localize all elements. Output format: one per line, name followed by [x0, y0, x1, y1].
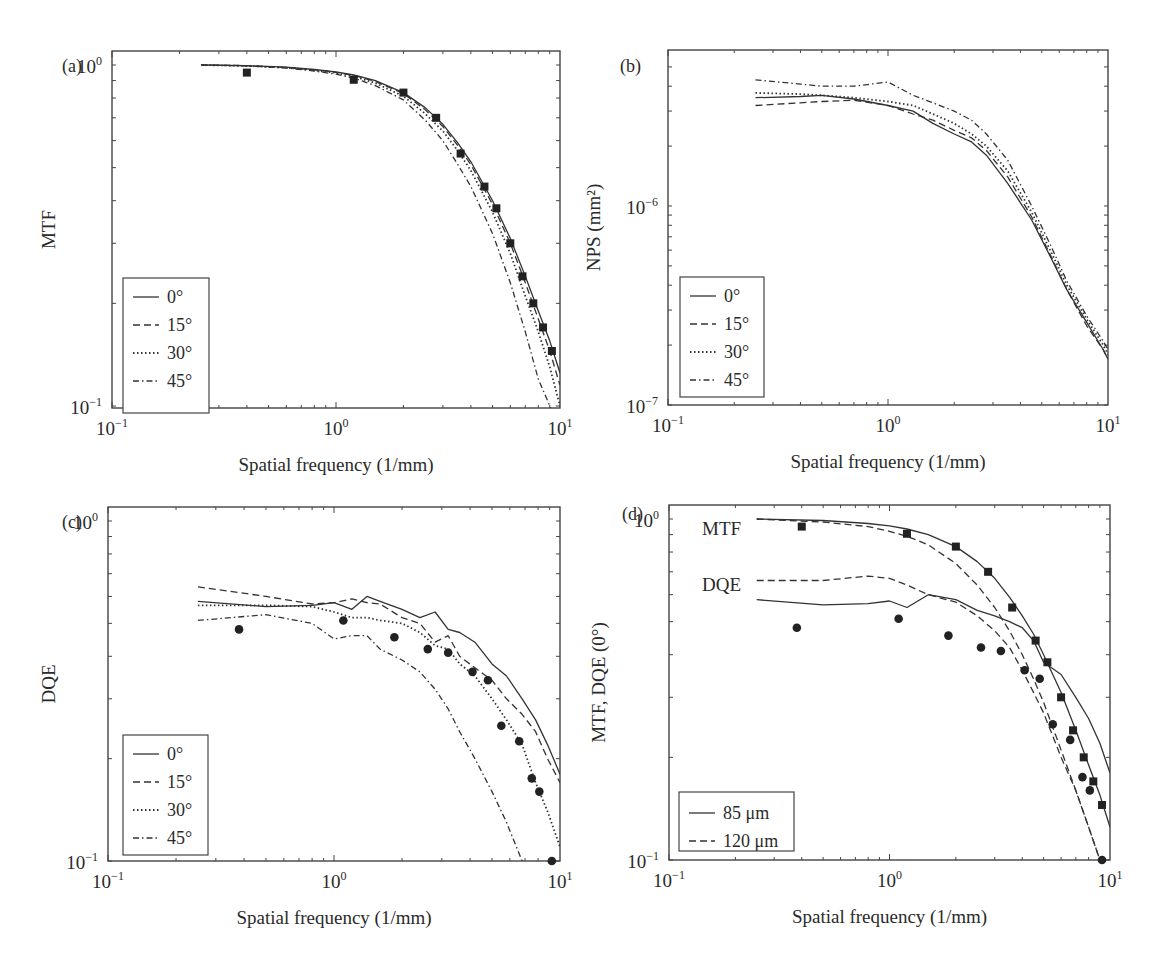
- panel-c: 10−110010110−1100(c)Spatial frequency (1…: [38, 507, 573, 929]
- panel-label: (d): [622, 504, 643, 525]
- legend: 85 μm120 μm: [679, 792, 794, 851]
- x-tick-label: 100: [877, 868, 902, 891]
- exponent: −1: [115, 416, 128, 430]
- data-marker-square: [506, 239, 514, 247]
- x-tick-label: 100: [876, 413, 901, 436]
- data-marker-square: [1098, 801, 1106, 809]
- plot-area: [201, 65, 560, 428]
- annotation-mtf: MTF: [702, 518, 741, 539]
- data-marker-circle: [944, 631, 953, 640]
- exponent: −1: [671, 413, 684, 427]
- data-marker-circle: [1020, 666, 1029, 675]
- data-marker-circle: [484, 676, 493, 685]
- series-line-MTF85m: [757, 519, 1110, 827]
- legend-label: 0°: [724, 286, 740, 306]
- exponent: 1: [1115, 413, 1121, 427]
- panel-label: (c): [62, 512, 82, 533]
- data-marker-square: [1089, 777, 1097, 785]
- exponent: 0: [92, 510, 98, 524]
- x-tick-label: 101: [548, 416, 573, 439]
- series-line-45: [201, 65, 560, 428]
- exponent: −1: [85, 850, 98, 864]
- legend: 0°15°30°45°: [680, 277, 764, 397]
- x-axis-label: Spatial frequency (1/mm): [236, 907, 431, 929]
- data-marker-circle: [1035, 674, 1044, 683]
- data-marker-square: [903, 530, 911, 538]
- exponent: −7: [645, 394, 658, 408]
- exponent: −1: [111, 869, 124, 883]
- data-marker-circle: [1066, 736, 1075, 745]
- exponent: 1: [567, 869, 573, 883]
- data-marker-square: [243, 69, 251, 77]
- data-marker-circle: [894, 614, 903, 623]
- y-axis-label: MTF, DQE (0°): [588, 622, 610, 743]
- legend-label: 30°: [167, 800, 192, 820]
- legend-label: 30°: [724, 342, 749, 362]
- data-marker-square: [399, 89, 407, 97]
- series-line-0: [756, 95, 1109, 359]
- data-marker-square: [1069, 726, 1077, 734]
- data-marker-circle: [977, 643, 986, 652]
- plot-area: [756, 80, 1109, 359]
- data-marker-square: [952, 543, 960, 551]
- series-line-30: [198, 605, 560, 847]
- x-axis-label: Spatial frequency (1/mm): [238, 454, 433, 476]
- data-marker-circle: [423, 645, 432, 654]
- x-axis-label: Spatial frequency (1/mm): [792, 906, 987, 928]
- series-line-15: [756, 100, 1109, 359]
- data-marker-square: [1057, 693, 1065, 701]
- series-line-0: [201, 65, 560, 373]
- panel-label: (a): [62, 56, 82, 77]
- legend-label: 15°: [167, 315, 192, 335]
- exponent: −1: [89, 395, 102, 409]
- y-tick-label: 10−1: [70, 395, 102, 418]
- x-tick-label: 101: [1096, 413, 1121, 436]
- data-marker-circle: [548, 857, 557, 866]
- legend-label: 120 μm: [723, 831, 778, 851]
- data-marker-circle: [1048, 720, 1057, 729]
- x-tick-label: 101: [548, 869, 573, 892]
- x-tick-label: 100: [324, 416, 349, 439]
- exponent: 0: [341, 869, 347, 883]
- series-line-MTF120m: [757, 519, 1110, 880]
- series-line-DQE120m: [757, 576, 1110, 880]
- y-tick-label: 10−1: [627, 849, 659, 872]
- data-marker-circle: [235, 625, 244, 634]
- data-marker-circle: [468, 668, 477, 677]
- data-marker-circle: [1098, 856, 1107, 865]
- x-tick-label: 10−1: [653, 868, 685, 891]
- data-marker-square: [1008, 604, 1016, 612]
- legend-box: [123, 735, 208, 855]
- data-marker-circle: [535, 787, 544, 796]
- data-marker-square: [548, 347, 556, 355]
- legend-box: [680, 277, 764, 397]
- figure-grid: 10−110010110−1100(a)Spatial frequency (1…: [0, 0, 1167, 966]
- data-marker-square: [432, 114, 440, 122]
- panel-label: (b): [620, 56, 641, 77]
- data-marker-square: [518, 272, 526, 280]
- legend-label: 85 μm: [723, 803, 769, 823]
- annotation-dqe: DQE: [702, 574, 741, 595]
- legend-label: 45°: [167, 828, 192, 848]
- x-axis-label: Spatial frequency (1/mm): [790, 451, 985, 473]
- x-tick-label: 10−1: [92, 869, 124, 892]
- y-axis-label: NPS (mm²): [583, 184, 605, 272]
- data-marker-square: [350, 76, 358, 84]
- data-marker-square: [457, 150, 465, 158]
- plot-area: [757, 519, 1110, 880]
- legend-label: 0°: [167, 744, 183, 764]
- data-marker-circle: [793, 623, 802, 632]
- data-marker-circle: [527, 774, 536, 783]
- x-tick-label: 10−1: [652, 413, 684, 436]
- data-marker-square: [1032, 637, 1040, 645]
- y-tick-label: 10−1: [66, 850, 98, 873]
- series-line-15: [201, 65, 560, 385]
- plot-area: [198, 587, 560, 881]
- y-axis-label: DQE: [38, 664, 59, 703]
- y-tick-label: 10−7: [626, 394, 658, 417]
- x-tick-label: 100: [322, 869, 347, 892]
- legend-box: [123, 278, 209, 413]
- series-line-30: [756, 93, 1109, 354]
- data-marker-square: [492, 204, 500, 212]
- data-marker-circle: [997, 647, 1006, 656]
